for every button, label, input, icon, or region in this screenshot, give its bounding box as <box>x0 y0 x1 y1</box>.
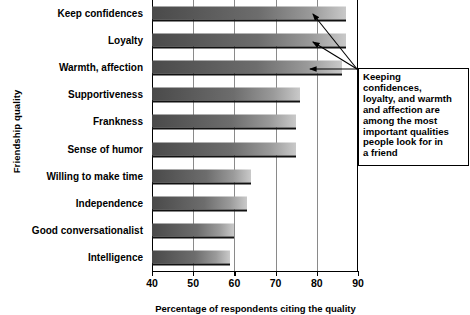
x-axis-tick-label: 80 <box>311 277 323 289</box>
annotation-callout-text: Keepingconfidences,loyalty, and warmthan… <box>363 72 468 159</box>
bar <box>152 224 234 239</box>
bar <box>152 115 296 130</box>
x-axis-tick <box>234 271 235 276</box>
category-label: Independence <box>76 199 143 209</box>
x-axis-tick-label: 70 <box>270 277 282 289</box>
annotation-callout-box: Keepingconfidences,loyalty, and warmthan… <box>358 68 469 166</box>
x-axis-tick <box>358 271 359 276</box>
bar <box>152 169 251 184</box>
bar <box>152 142 296 157</box>
bar <box>152 33 346 48</box>
plot-area <box>152 0 358 272</box>
category-label: Sense of humor <box>67 145 143 155</box>
x-axis-tick <box>276 271 277 276</box>
bar <box>152 88 300 103</box>
bar <box>152 6 346 21</box>
bar <box>152 61 342 76</box>
x-axis-tick <box>152 271 153 276</box>
annotation-text-line: among the most <box>363 116 468 127</box>
category-label: Intelligence <box>88 253 143 263</box>
x-axis-tick-label: 90 <box>352 277 364 289</box>
category-label: Keep confidences <box>57 9 143 19</box>
x-axis-tick-label: 60 <box>229 277 241 289</box>
x-axis-tick-label: 50 <box>187 277 199 289</box>
category-label: Good conversationalist <box>32 226 143 236</box>
bar <box>152 251 230 266</box>
category-label: Supportiveness <box>68 90 143 100</box>
category-label: Warmth, affection <box>59 63 143 73</box>
x-axis-title: Percentage of respondents citing the qua… <box>152 303 359 314</box>
annotation-text-line: a friend <box>363 148 468 159</box>
annotation-text-line: and affection are <box>363 105 468 116</box>
category-label: Willing to make time <box>46 172 143 182</box>
bar <box>152 197 247 212</box>
x-axis-tick <box>193 271 194 276</box>
category-label: Frankness <box>93 117 143 127</box>
category-label: Loyalty <box>108 36 143 46</box>
category-label-list: Keep confidencesLoyaltyWarmth, affection… <box>0 0 149 272</box>
x-axis-line <box>152 271 359 272</box>
bar-chart: Friendship quality Keep confidencesLoyal… <box>0 0 470 315</box>
x-axis-tick <box>317 271 318 276</box>
x-axis-tick-label: 40 <box>146 277 158 289</box>
